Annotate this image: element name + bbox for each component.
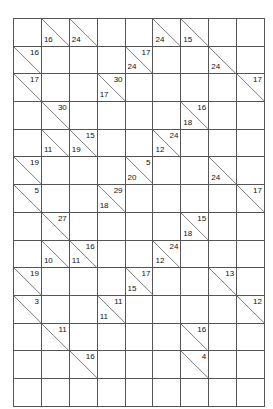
answer-cell[interactable] — [97, 240, 125, 268]
answer-cell[interactable] — [237, 323, 265, 351]
answer-cell[interactable] — [69, 295, 97, 323]
answer-cell[interactable] — [125, 240, 153, 268]
answer-cell[interactable] — [209, 323, 237, 351]
answer-cell[interactable] — [69, 268, 97, 296]
down-clue-number: 24 — [211, 63, 220, 71]
answer-cell[interactable] — [209, 102, 237, 130]
kakuro-row: 16172424 — [14, 46, 265, 74]
answer-cell[interactable] — [125, 212, 153, 240]
answer-cell[interactable] — [237, 212, 265, 240]
answer-cell[interactable] — [153, 46, 181, 74]
clue-cell: 3 — [14, 295, 42, 323]
clue-cell: 2918 — [97, 185, 125, 213]
answer-cell[interactable] — [153, 295, 181, 323]
answer-cell[interactable] — [125, 351, 153, 379]
clue-cell: 24 — [69, 19, 97, 47]
answer-cell[interactable] — [153, 323, 181, 351]
across-clue-number: 17 — [253, 187, 262, 195]
kakuro-row: 1116 — [14, 323, 265, 351]
answer-cell[interactable] — [97, 378, 125, 406]
answer-cell[interactable] — [41, 74, 69, 102]
clue-cell: 15 — [181, 19, 209, 47]
answer-cell[interactable] — [181, 46, 209, 74]
answer-cell[interactable] — [97, 129, 125, 157]
answer-cell[interactable] — [237, 102, 265, 130]
answer-cell[interactable] — [181, 74, 209, 102]
answer-cell[interactable] — [125, 295, 153, 323]
answer-cell[interactable] — [41, 268, 69, 296]
answer-cell[interactable] — [209, 129, 237, 157]
answer-cell[interactable] — [153, 102, 181, 130]
answer-cell[interactable] — [181, 185, 209, 213]
answer-cell[interactable] — [209, 74, 237, 102]
answer-cell[interactable] — [153, 212, 181, 240]
answer-cell[interactable] — [69, 74, 97, 102]
answer-cell[interactable] — [125, 378, 153, 406]
answer-cell[interactable] — [41, 46, 69, 74]
answer-cell[interactable] — [209, 212, 237, 240]
answer-cell[interactable] — [209, 185, 237, 213]
answer-cell[interactable] — [153, 378, 181, 406]
answer-cell[interactable] — [153, 74, 181, 102]
answer-cell[interactable] — [125, 323, 153, 351]
answer-cell[interactable] — [97, 102, 125, 130]
across-clue-number: 17 — [142, 49, 151, 57]
answer-cell[interactable] — [69, 323, 97, 351]
answer-cell[interactable] — [41, 295, 69, 323]
answer-cell[interactable] — [237, 378, 265, 406]
across-clue-number: 19 — [30, 159, 39, 167]
answer-cell[interactable] — [209, 351, 237, 379]
answer-cell[interactable] — [69, 185, 97, 213]
block-cell — [14, 212, 42, 240]
kakuro-row: 19171513 — [14, 268, 265, 296]
answer-cell[interactable] — [181, 129, 209, 157]
answer-cell[interactable] — [41, 185, 69, 213]
answer-cell[interactable] — [153, 157, 181, 185]
answer-cell[interactable] — [125, 185, 153, 213]
answer-cell[interactable] — [41, 378, 69, 406]
answer-cell[interactable] — [125, 74, 153, 102]
block-cell — [153, 351, 181, 379]
block-cell — [237, 157, 265, 185]
down-clue-number: 12 — [155, 257, 164, 265]
kakuro-row: 16242415 — [14, 19, 265, 47]
answer-cell[interactable] — [97, 351, 125, 379]
answer-cell[interactable] — [97, 212, 125, 240]
answer-cell[interactable] — [69, 102, 97, 130]
answer-cell[interactable] — [125, 102, 153, 130]
answer-cell[interactable] — [97, 268, 125, 296]
across-clue-number: 16 — [86, 243, 95, 251]
answer-cell[interactable] — [237, 129, 265, 157]
answer-cell[interactable] — [181, 295, 209, 323]
answer-cell[interactable] — [97, 157, 125, 185]
answer-cell[interactable] — [237, 351, 265, 379]
answer-cell[interactable] — [237, 240, 265, 268]
answer-cell[interactable] — [14, 378, 42, 406]
answer-cell[interactable] — [209, 240, 237, 268]
answer-cell[interactable] — [209, 378, 237, 406]
kakuro-grid[interactable]: 1624241516172424173017173016181115192412… — [13, 18, 265, 407]
clue-cell: 11 — [41, 129, 69, 157]
clue-cell: 11 — [41, 323, 69, 351]
answer-cell[interactable] — [69, 378, 97, 406]
answer-cell[interactable] — [181, 378, 209, 406]
down-clue-number: 18 — [183, 119, 192, 127]
block-cell — [14, 240, 42, 268]
kakuro-row: 17301717 — [14, 74, 265, 102]
across-clue-number: 16 — [86, 353, 95, 361]
across-clue-number: 3 — [34, 298, 38, 306]
answer-cell[interactable] — [69, 157, 97, 185]
answer-cell[interactable] — [153, 268, 181, 296]
answer-cell[interactable] — [209, 295, 237, 323]
answer-cell[interactable] — [181, 268, 209, 296]
answer-cell[interactable] — [181, 240, 209, 268]
answer-cell[interactable] — [125, 129, 153, 157]
block-cell — [237, 19, 265, 47]
answer-cell[interactable] — [97, 323, 125, 351]
answer-cell[interactable] — [69, 46, 97, 74]
answer-cell[interactable] — [41, 157, 69, 185]
across-clue-number: 16 — [197, 326, 206, 334]
answer-cell[interactable] — [181, 157, 209, 185]
answer-cell[interactable] — [153, 185, 181, 213]
answer-cell[interactable] — [69, 212, 97, 240]
